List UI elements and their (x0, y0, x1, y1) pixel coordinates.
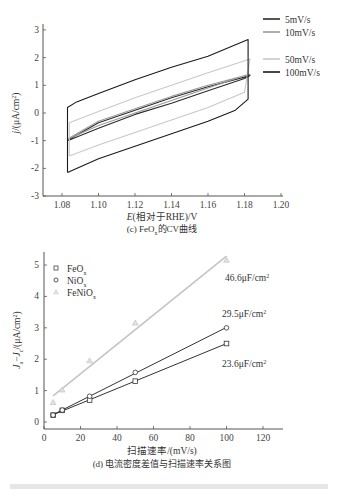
cv-y-tick-label: -1 (31, 136, 39, 146)
scan-rate-y-tick-label: 4 (34, 291, 39, 301)
cv-y-tick-label: 3 (34, 25, 39, 35)
cropped-text-line (10, 484, 328, 489)
cv-y-tick-label: 2 (34, 53, 39, 63)
scan-rate-y-tick-label: 1 (34, 386, 39, 396)
scan-rate-annotations: 23.6μF/cm229.5μF/cm246.6μF/cm2 (222, 273, 269, 369)
cv-y-tick-label: -3 (31, 191, 39, 201)
square-marker (224, 341, 229, 346)
fit-line (53, 344, 226, 415)
circle-marker (224, 326, 229, 331)
cv-x-tick-label: 1.12 (127, 200, 144, 210)
triangle-marker (87, 358, 93, 363)
cv-chart: -3-2-101231.081.101.121.141.161.181.20 5… (11, 15, 320, 237)
legend-label: 10mV/s (285, 28, 315, 38)
scan-rate-x-tick-label: 80 (185, 433, 195, 443)
scan-rate-x-tick-label: 0 (42, 433, 47, 443)
capacitance-label: 46.6μF/cm2 (225, 273, 269, 283)
scan-rate-chart: 012345020406080100120 FeOxNiOxFeNiOx 23.… (12, 252, 283, 469)
cv-y-tick-label: 1 (34, 80, 39, 90)
circle-marker (87, 394, 92, 399)
cv-x-tick-label: 1.18 (236, 200, 253, 210)
fit-line (53, 327, 226, 414)
legend-triangle-icon (54, 289, 59, 293)
scan-rate-x-tick-label: 100 (219, 433, 234, 443)
triangle-marker (132, 320, 138, 325)
scan-rate-legend: FeOxNiOxFeNiOx (54, 264, 96, 300)
scan-rate-x-tick-label: 20 (76, 433, 86, 443)
circle-marker (60, 408, 65, 413)
cv-y-tick-label: -2 (31, 163, 39, 173)
figure: -3-2-101231.081.101.121.141.161.181.20 5… (0, 0, 338, 489)
scan-rate-y-axis-title: Ja−Jc/(μA/cm2) (12, 311, 24, 368)
cv-axes: -3-2-101231.081.101.121.141.161.181.20 (31, 24, 289, 210)
legend-label: FeOx (67, 264, 86, 276)
cv-x-tick-label: 1.20 (273, 200, 290, 210)
scan-rate-y-tick-label: 0 (34, 417, 39, 427)
legend-label: 50mV/s (285, 55, 315, 65)
scan-rate-y-tick-label: 2 (34, 354, 39, 364)
scan-rate-x-tick-label: 60 (149, 433, 159, 443)
capacitance-label: 23.6μF/cm2 (222, 359, 266, 369)
circle-marker (51, 413, 56, 418)
square-marker (133, 379, 138, 384)
cv-caption: (c) FeOx的CV曲线 (127, 223, 197, 236)
cv-curves (68, 40, 251, 173)
cv-y-tick-label: 0 (34, 108, 39, 118)
cv-curve (68, 76, 251, 141)
legend-label: 100mV/s (285, 68, 320, 78)
legend-label: FeNiOx (67, 288, 96, 300)
cv-x-axis-title: E(相对于RHE)/V (126, 211, 198, 223)
cv-legend: 5mV/s10mV/s50mV/s100mV/s (263, 15, 320, 78)
legend-square-icon (54, 266, 58, 270)
cv-y-axis-title: j/(μA/cm2) (11, 93, 22, 136)
cv-x-tick-label: 1.14 (163, 200, 180, 210)
cv-x-tick-label: 1.08 (54, 200, 71, 210)
triangle-marker (50, 400, 56, 405)
legend-label: 5mV/s (285, 15, 311, 25)
cv-curve (68, 40, 249, 173)
circle-marker (133, 370, 138, 375)
legend-circle-icon (54, 278, 58, 282)
capacitance-label: 29.5μF/cm2 (222, 309, 266, 319)
scan-rate-x-tick-label: 40 (112, 433, 122, 443)
scan-rate-caption: (d) 电流密度差值与扫描速率关系图 (93, 458, 232, 469)
cv-x-tick-label: 1.16 (200, 200, 217, 210)
scan-rate-y-tick-label: 5 (34, 260, 39, 270)
scan-rate-x-axis-title: 扫描速率/(mV/s) (127, 445, 197, 457)
cv-x-tick-label: 1.10 (90, 200, 107, 210)
scan-rate-x-tick-label: 120 (256, 433, 271, 443)
legend-label: NiOx (67, 276, 86, 288)
scan-rate-y-tick-label: 3 (34, 323, 39, 333)
